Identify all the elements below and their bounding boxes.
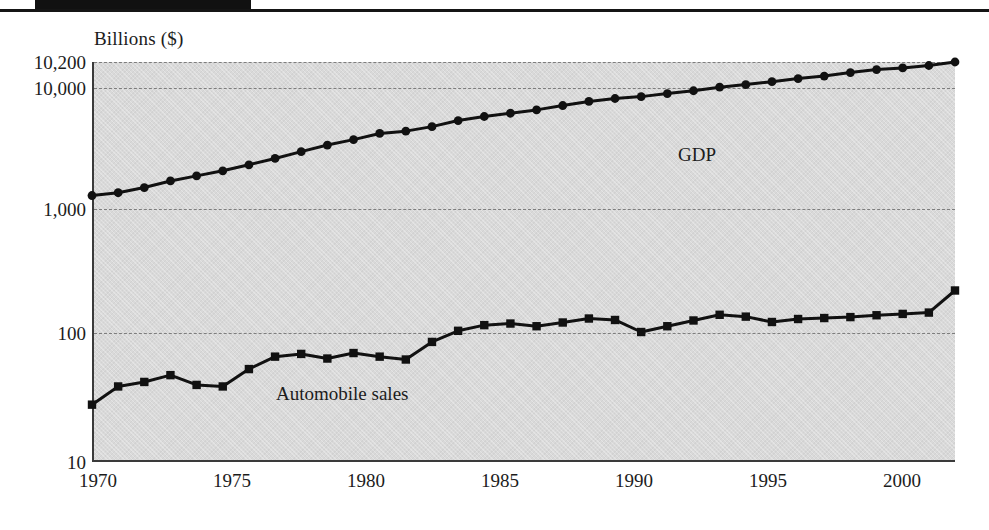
chart-figure: Billions ($) 10,200 10,000 1,000 100 10 … — [0, 0, 989, 530]
series-label-gdp: GDP — [678, 144, 716, 166]
series-auto-line — [88, 286, 959, 409]
series-label-automobile-sales: Automobile sales — [276, 383, 408, 405]
series-gdp-line — [88, 58, 960, 200]
series-overlay — [0, 0, 989, 530]
